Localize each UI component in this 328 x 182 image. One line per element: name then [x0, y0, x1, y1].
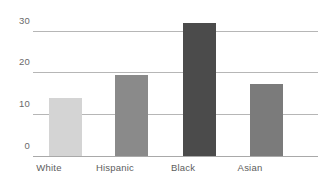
y-tick-label-0: 0 [0, 141, 30, 151]
bar-black[interactable] [183, 23, 216, 156]
bar-chart: 30 20 10 0 White Hispanic Black Asian [0, 0, 328, 182]
x-tick-label-asian: Asian [217, 162, 283, 173]
y-tick-label-10: 10 [0, 99, 30, 109]
plot-area [33, 10, 318, 158]
bars-layer [33, 10, 318, 158]
x-tick-label-black: Black [150, 162, 216, 173]
y-tick-label-30: 30 [0, 16, 30, 26]
bar-white[interactable] [49, 98, 82, 156]
x-tick-label-white: White [16, 162, 82, 173]
y-tick-label-20: 20 [0, 57, 30, 67]
bar-asian[interactable] [250, 84, 283, 156]
bar-hispanic[interactable] [115, 75, 148, 156]
x-tick-label-hispanic: Hispanic [82, 162, 148, 173]
